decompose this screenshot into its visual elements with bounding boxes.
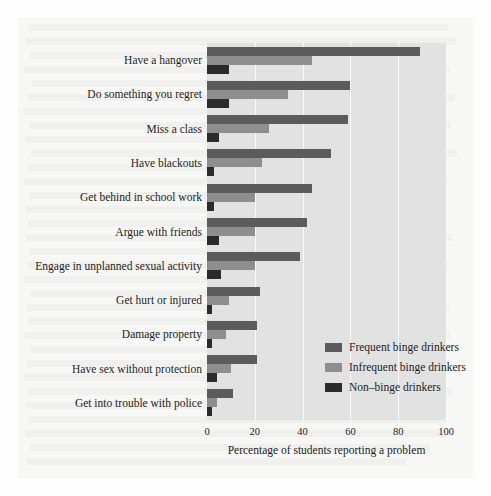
bar bbox=[207, 99, 229, 108]
bar bbox=[207, 65, 229, 74]
chart-figure: Frequent binge drinkersInfrequent binge … bbox=[18, 18, 473, 478]
bar-group bbox=[207, 252, 446, 279]
x-tick-label: 20 bbox=[250, 426, 261, 437]
category-label: Get hurt or injured bbox=[116, 294, 202, 306]
bar bbox=[207, 184, 312, 193]
category-label: Get behind in school work bbox=[80, 191, 202, 203]
legend-item: Infrequent binge drinkers bbox=[325, 359, 466, 375]
legend-label: Frequent binge drinkers bbox=[349, 341, 459, 354]
bar-group bbox=[207, 115, 446, 142]
bar bbox=[207, 167, 214, 176]
plot-area: Frequent binge drinkersInfrequent binge … bbox=[207, 43, 446, 420]
bar bbox=[207, 252, 300, 261]
bar bbox=[207, 202, 214, 211]
bar-group bbox=[207, 81, 446, 108]
bar bbox=[207, 158, 262, 167]
category-label: Have a hangover bbox=[124, 54, 202, 66]
legend-swatch-icon bbox=[325, 363, 342, 372]
bar bbox=[207, 218, 307, 227]
bar bbox=[207, 321, 257, 330]
bar bbox=[207, 133, 219, 142]
bar-group bbox=[207, 149, 446, 176]
bar bbox=[207, 364, 231, 373]
x-tick-label: 100 bbox=[438, 426, 454, 437]
legend-swatch-icon bbox=[325, 343, 342, 352]
bar-group bbox=[207, 287, 446, 314]
category-label: Argue with friends bbox=[115, 226, 202, 238]
bar bbox=[207, 305, 212, 314]
legend-swatch-icon bbox=[325, 383, 342, 392]
x-tick-label: 60 bbox=[345, 426, 356, 437]
category-label: Damage property bbox=[122, 328, 202, 340]
bar bbox=[207, 270, 221, 279]
bar bbox=[207, 355, 257, 364]
ghost-text-line bbox=[28, 24, 448, 31]
legend-item: Non–binge drinkers bbox=[325, 379, 466, 395]
bar bbox=[207, 339, 212, 348]
bar bbox=[207, 398, 217, 407]
legend-label: Infrequent binge drinkers bbox=[349, 361, 466, 374]
x-axis-tick-labels: 020406080100 bbox=[207, 426, 446, 442]
bar bbox=[207, 296, 229, 305]
ghost-text-line bbox=[27, 458, 407, 465]
bar bbox=[207, 330, 226, 339]
bar bbox=[207, 389, 233, 398]
category-label: Engage in unplanned sexual activity bbox=[35, 260, 202, 272]
bar bbox=[207, 115, 348, 124]
x-axis-title: Percentage of students reporting a probl… bbox=[207, 444, 446, 456]
legend-label: Non–binge drinkers bbox=[349, 381, 441, 394]
bar-group bbox=[207, 184, 446, 211]
x-tick-label: 0 bbox=[204, 426, 209, 437]
bar bbox=[207, 407, 212, 416]
page-canvas: Frequent binge drinkersInfrequent binge … bbox=[0, 0, 491, 496]
bar bbox=[207, 193, 255, 202]
x-tick-label: 40 bbox=[297, 426, 308, 437]
bar bbox=[207, 261, 255, 270]
category-label: Do something you regret bbox=[87, 88, 202, 100]
x-tick-label: 80 bbox=[393, 426, 404, 437]
bar bbox=[207, 90, 288, 99]
bar bbox=[207, 124, 269, 133]
category-label: Get into trouble with police bbox=[75, 397, 202, 409]
bar-group bbox=[207, 47, 446, 74]
legend-item: Frequent binge drinkers bbox=[325, 339, 466, 355]
bar bbox=[207, 227, 255, 236]
bar bbox=[207, 56, 312, 65]
bar bbox=[207, 287, 260, 296]
bar bbox=[207, 81, 350, 90]
bar bbox=[207, 236, 219, 245]
chart-legend: Frequent binge drinkersInfrequent binge … bbox=[325, 339, 466, 399]
bar bbox=[207, 47, 420, 56]
category-label: Miss a class bbox=[146, 123, 202, 135]
bar bbox=[207, 373, 217, 382]
bar-group bbox=[207, 218, 446, 245]
category-label: Have sex without protection bbox=[72, 363, 202, 375]
category-label: Have blackouts bbox=[131, 157, 202, 169]
category-axis-labels: Have a hangoverDo something you regretMi… bbox=[18, 43, 202, 420]
bar bbox=[207, 149, 331, 158]
